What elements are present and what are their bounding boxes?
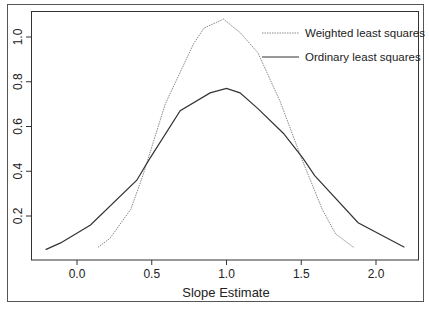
chart: 0.20.40.60.81.0 0.00.51.01.52.0 Slope Es… [0,0,429,309]
x-tick-label: 1.5 [293,267,310,281]
legend-label-weighted: Weighted least squares [305,27,425,39]
plot-area [32,12,419,261]
x-axis-title: Slope Estimate [182,285,269,300]
series-ordinary-least-squares [46,89,405,250]
x-tick-label: 2.0 [368,267,385,281]
legend-label-ordinary: Ordinary least squares [305,51,421,63]
y-axis: 0.20.40.60.81.0 [11,28,31,224]
y-tick-label: 0.4 [11,163,25,180]
x-tick-label: 0.5 [143,267,160,281]
x-axis: 0.00.51.01.52.0 [69,260,385,281]
y-tick-label: 0.2 [11,207,25,224]
x-tick-label: 1.0 [218,267,235,281]
figure-frame [8,5,424,302]
x-tick-label: 0.0 [69,267,86,281]
y-tick-label: 1.0 [11,28,25,45]
y-tick-label: 0.8 [11,73,25,90]
y-tick-label: 0.6 [11,118,25,135]
legend: Weighted least squares Ordinary least sq… [262,27,425,63]
